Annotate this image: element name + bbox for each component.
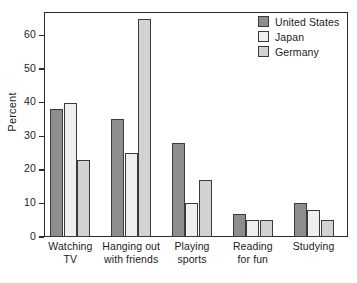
- legend-swatch-icon: [258, 16, 269, 27]
- legend: United StatesJapanGermany: [258, 15, 339, 58]
- x-axis-label: Studying: [275, 240, 353, 253]
- legend-swatch-icon: [258, 46, 269, 57]
- legend-swatch-icon: [258, 31, 269, 42]
- legend-item[interactable]: Germany: [258, 45, 339, 58]
- legend-label: Japan: [275, 31, 304, 43]
- legend-item[interactable]: Japan: [258, 30, 339, 43]
- bar[interactable]: [260, 220, 273, 237]
- bar[interactable]: [246, 220, 259, 237]
- y-axis-tick-label: 20: [24, 162, 36, 174]
- bar-group: [50, 12, 90, 237]
- bar[interactable]: [77, 160, 90, 237]
- y-axis-tick-label: 40: [24, 95, 36, 107]
- chart-page: Percent 0102030405060 WatchingTVHanging …: [0, 0, 357, 283]
- bar[interactable]: [138, 19, 151, 237]
- bar[interactable]: [321, 220, 334, 237]
- bar[interactable]: [64, 103, 77, 237]
- bar[interactable]: [125, 153, 138, 237]
- y-axis-tick-label: 50: [24, 62, 36, 74]
- y-axis-tick-label: 10: [24, 196, 36, 208]
- bar-group: [111, 12, 151, 237]
- bar[interactable]: [294, 203, 307, 237]
- bar[interactable]: [307, 210, 320, 237]
- bar-group: [172, 12, 212, 237]
- legend-label: Germany: [275, 46, 319, 58]
- y-axis-tick-label: 30: [24, 129, 36, 141]
- bar[interactable]: [111, 119, 124, 237]
- y-axis-title: Percent: [6, 77, 18, 147]
- bar[interactable]: [172, 143, 185, 237]
- legend-label: United States: [275, 16, 339, 28]
- legend-item[interactable]: United States: [258, 15, 339, 28]
- x-axis-labels: WatchingTVHanging outwith friendsPlaying…: [44, 240, 348, 282]
- bar[interactable]: [50, 109, 63, 237]
- bar[interactable]: [233, 214, 246, 238]
- y-axis-tick-label: 60: [24, 28, 36, 40]
- bar[interactable]: [199, 180, 212, 237]
- bar[interactable]: [185, 203, 198, 237]
